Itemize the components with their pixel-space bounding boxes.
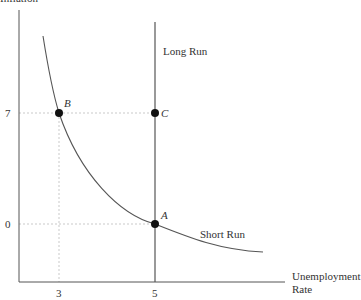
x-axis-title-line1: Unemployment [292, 270, 360, 282]
x-tick-5: 5 [152, 287, 158, 299]
point-a [151, 220, 159, 228]
short-run-label: Short Run [200, 228, 245, 240]
x-axis-title-line2: Rate [292, 283, 312, 295]
point-a-label: A [160, 209, 168, 221]
point-c-label: C [161, 107, 169, 119]
y-tick-7: 7 [5, 107, 11, 119]
point-b [55, 109, 63, 117]
guide-lines [19, 113, 155, 282]
point-c [151, 109, 159, 117]
x-tick-3: 3 [56, 287, 62, 299]
long-run-label: Long Run [163, 45, 208, 57]
y-tick-0: 0 [5, 218, 11, 230]
short-run-curve [43, 36, 263, 252]
y-axis-title: Inflation [0, 0, 38, 4]
phillips-curve-chart: Inflation B C A Long Run Short Run 7 0 3… [0, 0, 361, 300]
point-b-label: B [64, 97, 71, 109]
